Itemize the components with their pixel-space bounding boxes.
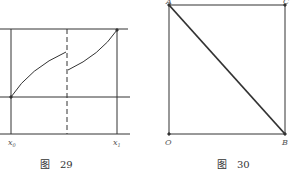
point-O [168, 133, 170, 135]
right-curve [68, 30, 117, 70]
diagonal-AB [169, 5, 285, 134]
label-A: A [165, 0, 172, 6]
figure-29 [0, 29, 130, 134]
label-B: B [281, 138, 288, 147]
label-x1: x1 [113, 138, 121, 148]
figures-canvas: x0 x1 图 29 A C O B 图 30 [0, 0, 291, 174]
left-curve [11, 52, 66, 97]
label-C: C [283, 0, 289, 6]
label-O: O [165, 138, 172, 147]
label-x0: x0 [8, 138, 17, 148]
figure-30 [168, 4, 286, 135]
point-B [284, 133, 286, 135]
caption-fig30: 图 30 [217, 159, 250, 170]
point-x1-end [116, 29, 118, 31]
caption-fig29: 图 29 [40, 159, 73, 170]
point-x0-start [10, 96, 12, 98]
